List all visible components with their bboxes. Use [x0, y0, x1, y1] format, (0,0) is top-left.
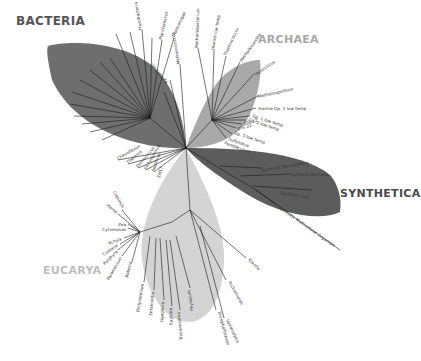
leaf-label: Naegleria: [159, 301, 165, 322]
domain-label-eucarya: EUCARYA: [43, 264, 101, 277]
leaf-label: Methanospirillum: [257, 87, 293, 99]
leaf-label: Homo: [106, 203, 119, 215]
domain-label-bacteria: BACTERIA: [16, 14, 85, 28]
leaf-label: marine Gp. 1 low temp: [258, 106, 306, 111]
leaf-label: Thermotogae: [170, 10, 187, 39]
leaf-label: Methanobacterium: [194, 8, 200, 48]
leaf-label: Planctomyces: [158, 11, 169, 40]
tree-of-life-diagram: Methanospirillum marine Gp. 1 low temp G…: [0, 0, 421, 361]
tree-root-node: [185, 147, 187, 149]
leaf-label: Babesia: [124, 261, 133, 279]
leaf-label: Cytomonas: [102, 227, 126, 232]
leaf-label: Synthetic Bacteria: [290, 172, 329, 177]
leaf-label: Encephalitozoon: [217, 311, 231, 346]
leaf-label: Thermococcus: [222, 27, 240, 58]
leaf-label: Coprinus: [112, 190, 126, 209]
leaf-label: Flavobacteria: [133, 1, 143, 30]
leaf-label: marine low temp: [210, 14, 221, 50]
domain-label-archaea: ARCHAEA: [258, 33, 319, 46]
leaf-label: Giardia: [247, 257, 261, 271]
leaf-label: Dictyostelium: [135, 283, 145, 312]
leaf-label: Entamoeba: [148, 291, 155, 316]
leaf-label: Euglena: [168, 308, 174, 326]
domain-label-synthetica: SYNTHETICA: [340, 187, 421, 200]
leaf-label: Trichomonas: [227, 279, 245, 305]
leaf-label: EM17: [156, 165, 164, 178]
